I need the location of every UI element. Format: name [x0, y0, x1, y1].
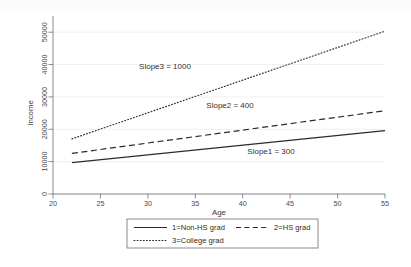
annotation-slope2: Slope2 = 400: [206, 101, 254, 110]
legend: 1=Non-HS grad 2=HS grad 3=College grad: [127, 219, 318, 248]
income-by-age-line-chart: 0 10000 20000 30000 40000 50000 Income 2…: [0, 0, 411, 267]
y-tick-label-0: 0: [40, 192, 49, 196]
annotation-slope3: Slope3 = 1000: [139, 62, 191, 71]
legend-label-non-hs-grad: 1=Non-HS grad: [172, 223, 225, 232]
x-tick-label-45: 45: [286, 199, 294, 208]
y-axis-title: Income: [26, 100, 35, 126]
x-tick-label-25: 25: [96, 199, 104, 208]
legend-label-hs-grad: 2=HS grad: [274, 223, 311, 232]
y-tick-label-50000: 50000: [40, 22, 49, 42]
x-tick-label-55: 55: [381, 199, 389, 208]
annotation-slope1: Slope1 = 300: [247, 147, 295, 156]
x-tick-label-20: 20: [49, 199, 57, 208]
chart-figure: 0 10000 20000 30000 40000 50000 Income 2…: [0, 0, 411, 267]
legend-label-college-grad: 3=College grad: [172, 236, 224, 245]
x-tick-label-35: 35: [191, 199, 199, 208]
top-scan-artifact: [0, 0, 411, 9]
y-tick-label-30000: 30000: [40, 87, 49, 107]
y-tick-label-20000: 20000: [40, 119, 49, 139]
x-tick-label-40: 40: [239, 199, 247, 208]
y-tick-label-10000: 10000: [40, 152, 49, 172]
y-tick-label-40000: 40000: [40, 55, 49, 75]
x-tick-label-30: 30: [144, 199, 152, 208]
x-tick-label-50: 50: [334, 199, 342, 208]
x-axis-title: Age: [212, 208, 226, 217]
